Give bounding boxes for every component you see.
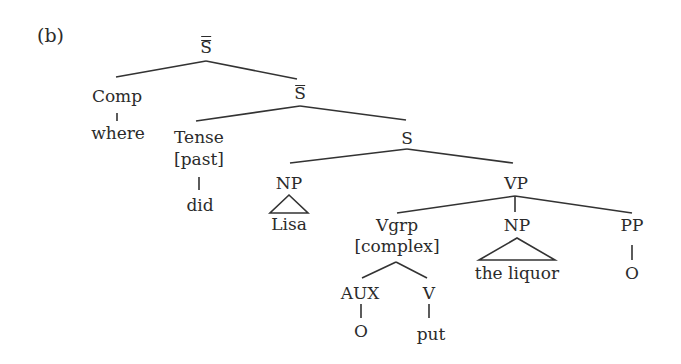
leaf-aux-empty: O [354, 321, 368, 341]
feature-past: [past] [174, 149, 224, 169]
branch-s-np [290, 149, 407, 163]
node-np-subject: NP [276, 173, 302, 193]
node-comp: Comp [92, 86, 142, 106]
node-aux: AUX [341, 283, 380, 303]
feature-complex: [complex] [354, 236, 439, 256]
node-v: V [423, 283, 435, 303]
overbar-2 [201, 40, 211, 41]
overbar-1 [201, 36, 211, 37]
leaf-where: where [91, 123, 145, 143]
node-s-double-bar: S [200, 37, 212, 57]
branch-vp-pp [515, 196, 632, 213]
leaf-did: did [186, 195, 213, 215]
node-pp: PP [621, 215, 644, 235]
leaf-the-liquor: the liquor [475, 263, 559, 283]
branch-s-vp [407, 149, 513, 163]
tree-branches [0, 0, 681, 364]
node-tense: Tense [174, 127, 224, 147]
branch-sbar-tense [196, 106, 300, 121]
branch-root-sbar [206, 61, 297, 79]
leaf-lisa: Lisa [271, 214, 307, 234]
leaf-put: put [417, 324, 446, 344]
node-s: S [401, 128, 413, 148]
syntax-tree-diagram: (b) S Comp where S Tense [past] did S NP… [0, 0, 681, 364]
node-np-object: NP [504, 215, 530, 235]
np-lisa-triangle [270, 195, 308, 213]
leaf-pp-empty: O [625, 263, 639, 283]
overbar [295, 85, 305, 86]
branch-sbar-s [300, 106, 406, 120]
branch-vgrp-v [396, 262, 427, 278]
np-liquor-triangle [479, 238, 555, 260]
node-vp: VP [504, 173, 528, 193]
branch-vgrp-aux [362, 262, 396, 278]
node-vgrp: Vgrp [376, 215, 418, 235]
panel-label: (b) [37, 24, 64, 46]
branch-vp-vgrp [397, 196, 515, 213]
branch-root-comp [116, 61, 206, 77]
node-s-bar: S [294, 83, 306, 103]
